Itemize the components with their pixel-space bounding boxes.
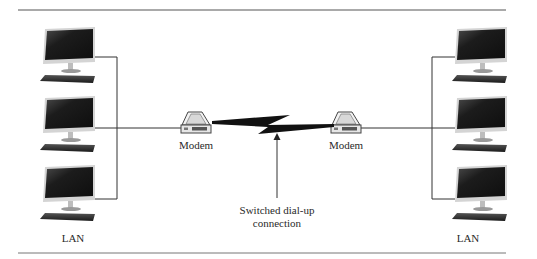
connection-label-line2: connection bbox=[222, 217, 332, 230]
left-computer-2 bbox=[40, 96, 95, 152]
right-lan-bus bbox=[358, 57, 455, 199]
connection-label: Switched dial-up connection bbox=[222, 204, 332, 230]
arrow-head-icon bbox=[274, 133, 281, 140]
right-modem-icon bbox=[331, 112, 361, 133]
right-modem-label: Modem bbox=[326, 139, 366, 152]
left-computer-3 bbox=[40, 165, 95, 221]
left-modem-label: Modem bbox=[176, 139, 216, 152]
right-lan-label: LAN bbox=[450, 232, 486, 245]
left-modem-icon bbox=[181, 112, 211, 133]
connection-label-line1: Switched dial-up bbox=[222, 204, 332, 217]
left-lan-label: LAN bbox=[55, 232, 91, 245]
right-computer-1 bbox=[452, 27, 507, 83]
left-computer-1 bbox=[40, 27, 95, 83]
lightning-bolt-icon bbox=[212, 115, 334, 134]
right-computer-2 bbox=[452, 96, 507, 152]
right-computer-3 bbox=[452, 165, 507, 221]
left-lan-bus bbox=[95, 57, 182, 199]
